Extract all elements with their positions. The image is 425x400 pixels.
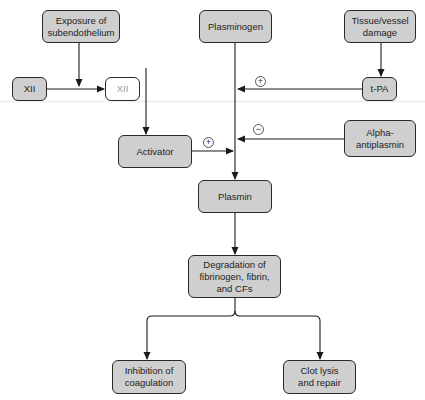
node-alpha-antiplasmin: Alpha- antiplasmin xyxy=(344,120,416,157)
node-degradation: Degradation of fibrinogen, fibrin, and C… xyxy=(188,255,281,298)
plus-sign-icon: + xyxy=(255,76,266,87)
node-tissue-vessel-damage: Tissue/vessel damage xyxy=(344,10,416,43)
node-exposure-of-subendothelium: Exposure of subendothelium xyxy=(42,10,120,43)
node-factor-xii-inactive: XII xyxy=(12,77,47,101)
minus-sign-icon: − xyxy=(253,124,264,135)
node-plasminogen: Plasminogen xyxy=(199,10,272,43)
node-inhibition-of-coagulation: Inhibition of coagulation xyxy=(112,360,186,394)
edge-degradation-clotlysis xyxy=(235,311,320,359)
node-factor-xii-active: XII xyxy=(105,77,140,101)
node-activator: Activator xyxy=(118,135,192,168)
node-plasmin: Plasmin xyxy=(198,180,272,213)
node-t-pa: t-PA xyxy=(362,77,397,101)
plus-sign-icon: + xyxy=(203,137,214,148)
edge-degradation-inhibition xyxy=(147,297,235,359)
node-clot-lysis-and-repair: Clot lysis and repair xyxy=(283,360,356,394)
